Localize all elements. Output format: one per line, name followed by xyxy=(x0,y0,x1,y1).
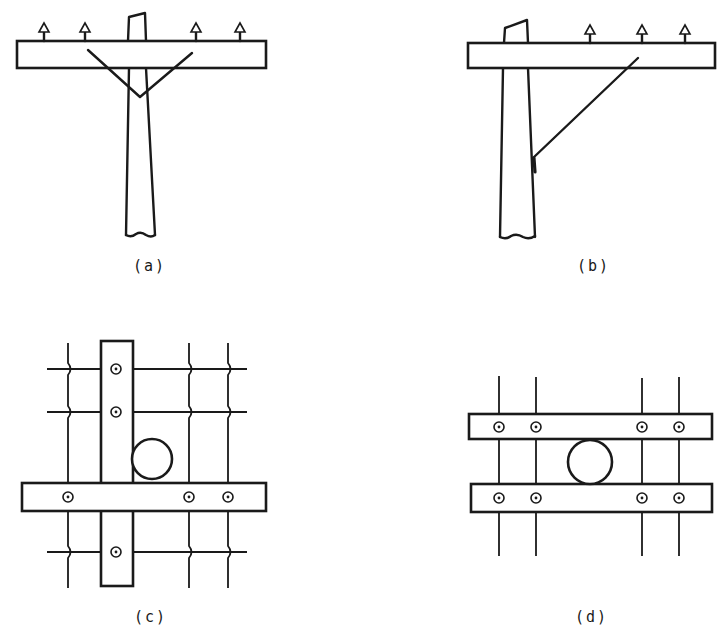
pole-circle xyxy=(132,439,172,479)
panel-d xyxy=(469,376,712,556)
pole-break xyxy=(126,233,155,237)
panel-c xyxy=(22,341,266,588)
panel-b-label: (b) xyxy=(577,257,610,275)
insulator-icon xyxy=(39,23,245,41)
pole-circle xyxy=(568,440,612,484)
panel-c-label: (c) xyxy=(134,608,167,626)
insulator-icon xyxy=(585,25,690,43)
pole-break xyxy=(500,235,535,239)
crossarm xyxy=(468,43,715,68)
panel-a xyxy=(17,13,266,237)
diagonal-brace xyxy=(533,58,638,158)
panel-b xyxy=(468,20,715,238)
panel-d-label: (d) xyxy=(575,608,608,626)
panel-a-label: (a) xyxy=(133,257,166,275)
crossarm xyxy=(17,41,266,68)
brace-bolt xyxy=(534,158,535,172)
utility-pole-diagram xyxy=(0,0,728,639)
